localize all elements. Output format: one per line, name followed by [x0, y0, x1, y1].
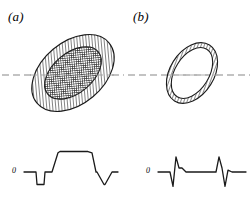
zero-label-b: 0 — [146, 167, 150, 175]
profile-traces — [0, 0, 252, 197]
profile-trace-a — [24, 152, 118, 185]
zero-label-a: 0 — [12, 167, 16, 175]
profile-trace-b — [158, 157, 246, 187]
figure-root: (a) (b) — [0, 0, 252, 197]
